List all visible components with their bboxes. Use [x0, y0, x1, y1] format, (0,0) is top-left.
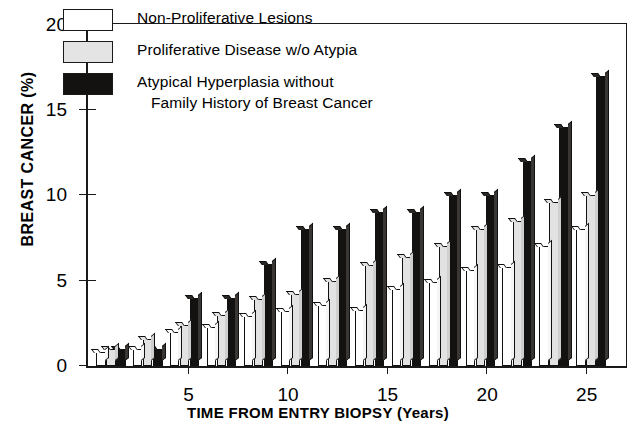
y-tick-inner	[88, 280, 96, 281]
bar-top-face	[370, 209, 381, 213]
bar-side-face	[474, 264, 478, 361]
bar-side-face	[373, 259, 377, 361]
chart-legend: Non-Proliferative LesionsProliferative D…	[63, 8, 483, 123]
bar-top-face	[443, 192, 454, 196]
y-tick-label: 5	[56, 270, 67, 292]
bar-top-face	[397, 254, 408, 258]
bar-top-face	[296, 226, 307, 230]
x-tick-label: 10	[277, 384, 298, 406]
bar-side-face	[484, 223, 488, 361]
bar-side-face	[188, 319, 192, 361]
legend-item: Non-Proliferative Lesions	[63, 8, 483, 31]
bar-k	[153, 349, 162, 366]
bar-w	[539, 246, 548, 366]
bar-group	[539, 24, 576, 366]
legend-label: Atypical Hyperplasia withoutFamily Histo…	[137, 72, 373, 114]
bar-w	[502, 267, 511, 366]
bar-side-face	[151, 333, 155, 361]
legend-item: Proliferative Disease w/o Atypia	[63, 40, 483, 63]
bar-side-face	[289, 305, 293, 361]
bar-side-face	[162, 343, 166, 361]
bar-top-face	[591, 73, 602, 77]
bar-side-face	[309, 223, 313, 361]
bar-top-face	[470, 226, 481, 230]
bar-top-face	[212, 312, 223, 316]
bar-side-face	[178, 326, 182, 361]
bar-top-face	[497, 264, 508, 268]
bar-w	[170, 332, 179, 366]
bar-top-face	[259, 261, 270, 265]
bar-w	[96, 352, 105, 366]
bar-side-face	[568, 121, 572, 361]
x-tick-label: 25	[576, 384, 597, 406]
bar-side-face	[235, 292, 239, 361]
legend-label: Non-Proliferative Lesions	[137, 8, 313, 29]
legend-label-line1: Non-Proliferative Lesions	[137, 9, 313, 26]
bar-top-face	[128, 346, 139, 350]
bar-top-face	[517, 158, 528, 162]
bar-top-face	[249, 296, 260, 300]
bar-side-face	[262, 293, 266, 361]
x-tick: 5	[188, 366, 189, 374]
bar-top-face	[433, 243, 444, 247]
bar-top-face	[323, 278, 334, 282]
bar-side-face	[326, 299, 330, 361]
bar-w	[392, 289, 401, 366]
breast-cancer-bar-chart: BREAST CANCER (%) TIME FROM ENTRY BIOPSY…	[0, 0, 636, 436]
bar-top-face	[544, 199, 555, 203]
bar-w	[318, 305, 327, 366]
bar-top-face	[480, 192, 491, 196]
legend-swatch	[63, 9, 113, 31]
bar-w	[466, 270, 475, 366]
bar-side-face	[363, 304, 367, 361]
bar-side-face	[457, 189, 461, 361]
y-tick-label: 0	[56, 355, 67, 377]
bar-top-face	[185, 295, 196, 299]
bar-group	[576, 24, 613, 366]
x-axis-title: TIME FROM ENTRY BIOPSY (Years)	[0, 404, 636, 421]
x-tick: 20	[486, 366, 487, 374]
legend-swatch	[63, 73, 113, 95]
bar-side-face	[198, 292, 202, 361]
x-tick-label: 15	[377, 384, 398, 406]
y-tick: 10	[79, 194, 88, 195]
y-tick-label: 10	[46, 184, 67, 206]
bar-side-face	[558, 196, 562, 361]
bar-side-face	[336, 275, 340, 361]
bar-w	[576, 229, 585, 366]
y-tick-inner	[88, 194, 96, 195]
bar-side-face	[605, 70, 609, 361]
bar-side-face	[252, 311, 256, 361]
legend-label: Proliferative Disease w/o Atypia	[137, 40, 357, 61]
bar-side-face	[511, 261, 515, 361]
bar-w	[429, 282, 438, 366]
bar-side-face	[346, 223, 350, 361]
bar-side-face	[585, 223, 589, 361]
bar-side-face	[447, 241, 451, 361]
bar-top-face	[202, 324, 213, 328]
legend-label-line2: Family History of Breast Cancer	[151, 93, 373, 114]
bar-top-face	[360, 262, 371, 266]
x-tick: 25	[586, 366, 587, 374]
bar-group	[502, 24, 539, 366]
x-tick: 10	[287, 366, 288, 374]
bar-top-face	[554, 124, 565, 128]
bar-w	[133, 349, 142, 366]
x-tick: 15	[387, 366, 388, 374]
bar-top-face	[222, 295, 233, 299]
bar-side-face	[494, 189, 498, 361]
bar-side-face	[383, 206, 387, 361]
bar-top-face	[581, 192, 592, 196]
bar-side-face	[400, 283, 404, 361]
y-axis-title: BREAST CANCER (%)	[19, 49, 37, 269]
legend-item: Atypical Hyperplasia withoutFamily Histo…	[63, 72, 483, 114]
bar-side-face	[215, 321, 219, 361]
legend-label-line1: Proliferative Disease w/o Atypia	[137, 41, 357, 58]
bar-side-face	[115, 343, 119, 361]
y-tick: 5	[79, 280, 88, 281]
bar-top-face	[333, 226, 344, 230]
bar-side-face	[272, 258, 276, 361]
bar-top-face	[138, 336, 149, 340]
bar-w	[244, 316, 253, 366]
bar-top-face	[165, 329, 176, 333]
